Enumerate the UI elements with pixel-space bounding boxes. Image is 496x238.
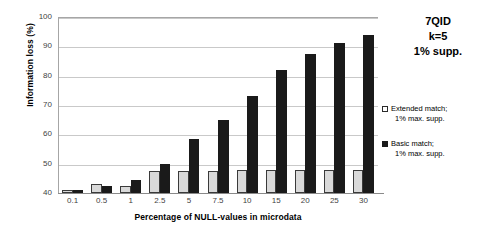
legend-entry: Extended match;1% max. supp.: [382, 104, 494, 123]
x-tick-label: 20: [291, 196, 319, 206]
bar-basic-match: [160, 164, 171, 193]
bar-group: [324, 17, 345, 193]
x-tick-label: 2.5: [146, 196, 174, 206]
bar-basic-match: [276, 70, 287, 193]
chart-figure: Information loss (%) 405060708090100 0.1…: [0, 0, 496, 238]
x-tick-label: 15: [262, 196, 290, 206]
bar-basic-match: [363, 35, 374, 193]
x-tick-label: 10: [233, 196, 261, 206]
x-axis-tick-labels: 0.10.512.557.51015202530: [58, 196, 378, 210]
annotation-line: k=5: [386, 29, 490, 44]
bar-basic-match: [218, 120, 229, 193]
bar-extended-match: [120, 186, 131, 193]
legend-entry: Basic match;1% max. supp.: [382, 139, 494, 158]
bar-basic-match: [305, 54, 316, 193]
x-axis-line: [58, 193, 384, 194]
x-tick-label: 7.5: [204, 196, 232, 206]
legend-label-line1: Basic match;: [391, 139, 494, 149]
x-tick-label: 25: [320, 196, 348, 206]
legend-label-line2: 1% max. supp.: [391, 149, 494, 159]
x-axis-title: Percentage of NULL-values in microdata: [58, 212, 378, 222]
y-tick-label: 70: [6, 101, 52, 109]
bar-extended-match: [91, 184, 102, 193]
bar-extended-match: [324, 170, 335, 193]
bar-group: [178, 17, 199, 193]
bar-extended-match: [178, 171, 189, 193]
bar-group: [237, 17, 258, 193]
y-tick-label: 40: [6, 189, 52, 197]
chart-annotation-title: 7QIDk=51% supp.: [386, 14, 490, 59]
bar-basic-match: [189, 139, 200, 193]
bar-extended-match: [62, 190, 73, 193]
bar-group: [208, 17, 229, 193]
y-tick-label: 100: [6, 13, 52, 21]
x-tick-label: 0.1: [59, 196, 87, 206]
y-tick-label: 60: [6, 130, 52, 138]
y-axis-tick-labels: 405060708090100: [0, 0, 52, 238]
annotation-line: 1% supp.: [386, 44, 490, 59]
x-tick-label: 1: [117, 196, 145, 206]
y-tick-label: 80: [6, 72, 52, 80]
bar-group: [295, 17, 316, 193]
bar-group: [149, 17, 170, 193]
bar-extended-match: [295, 170, 306, 193]
x-tick-label: 0.5: [88, 196, 116, 206]
bar-basic-match: [247, 96, 258, 193]
bar-basic-match: [334, 43, 345, 193]
hollow-square-icon: [382, 106, 388, 112]
bar-group: [120, 17, 141, 193]
filled-square-icon: [382, 141, 388, 147]
x-tick-label: 5: [175, 196, 203, 206]
y-tick-label: 50: [6, 160, 52, 168]
bar-extended-match: [353, 170, 364, 193]
bar-basic-match: [102, 186, 113, 193]
annotation-line: 7QID: [386, 14, 490, 29]
legend-label-line1: Extended match;: [391, 104, 494, 114]
bar-basic-match: [73, 190, 84, 193]
bar-extended-match: [266, 170, 277, 193]
y-tick-label: 90: [6, 42, 52, 50]
bar-extended-match: [149, 171, 160, 193]
bar-extended-match: [208, 171, 219, 193]
legend-label-line2: 1% max. supp.: [391, 114, 494, 124]
bar-basic-match: [131, 180, 142, 193]
bar-series-container: [58, 17, 378, 193]
bar-group: [353, 17, 374, 193]
x-tick-label: 30: [349, 196, 377, 206]
bar-group: [266, 17, 287, 193]
bar-group: [62, 17, 83, 193]
bar-extended-match: [237, 170, 248, 193]
chart-legend: Extended match;1% max. supp.Basic match;…: [382, 104, 494, 174]
bar-group: [91, 17, 112, 193]
